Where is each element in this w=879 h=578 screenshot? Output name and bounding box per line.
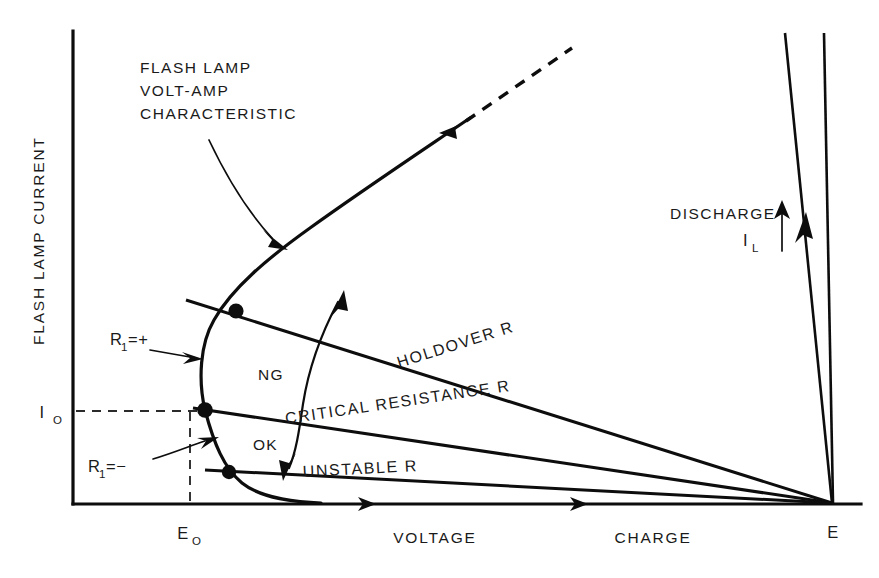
callout-leaders-group: [150, 140, 790, 459]
volt-amp-characteristic-diagram: FLASH LAMP CURRENT I O E O E VOLTAGE CHA…: [0, 0, 879, 578]
r1-negative-sign: =−: [106, 457, 126, 475]
critical-resistance-label: CRITICAL RESISTANCE R: [284, 377, 511, 427]
y-axis-label: FLASH LAMP CURRENT: [30, 136, 47, 345]
characteristic-callout-leader: [209, 140, 272, 238]
region-label-ok: OK: [253, 436, 278, 453]
x-tick-e0: E O: [177, 524, 202, 547]
r1-positive-label: R 1 =+: [110, 330, 148, 353]
characteristic-curve-upper-branch: [201, 118, 470, 410]
r1-positive-arrow-icon: [182, 352, 203, 364]
characteristic-callout-label: FLASH LAMP VOLT-AMP CHARACTERISTIC: [140, 59, 297, 122]
r1-positive-sign: =+: [128, 330, 148, 348]
r1-negative-leader: [153, 441, 205, 459]
y-tick-i0: I O: [39, 403, 63, 426]
stability-arrow-up-head-icon: [330, 290, 348, 318]
x-axis-label-voltage: VOLTAGE: [393, 529, 477, 546]
axis-group: [73, 31, 861, 504]
characteristic-callout-line-1: FLASH LAMP: [140, 59, 251, 76]
stability-transition-arrow-group: [279, 290, 348, 481]
figure-root: FLASH LAMP CURRENT I O E O E VOLTAGE CHA…: [0, 0, 879, 578]
unstable-resistance-label: UNSTABLE R: [302, 457, 418, 480]
discharge-current-label: I: [743, 231, 748, 249]
critical-operating-point-dot: [197, 402, 213, 418]
characteristic-callout-arrow-icon: [263, 230, 288, 250]
r1-negative-label: R 1 =−: [88, 457, 126, 480]
discharge-label: DISCHARGE: [670, 205, 776, 222]
characteristic-callout-line-2: VOLT-AMP: [140, 82, 229, 99]
discharge-callout-label: DISCHARGE I L: [670, 205, 776, 254]
y-tick-subscript: O: [53, 414, 63, 426]
holdover-operating-point-dot: [228, 303, 243, 318]
x-end-label: E: [827, 523, 839, 541]
y-tick-label: I: [39, 403, 44, 421]
stability-arrow-down-head-icon: [279, 453, 296, 481]
x-axis-label-charge: CHARGE: [614, 529, 691, 546]
holdover-resistance-label: HOLDOVER R: [395, 318, 516, 371]
region-label-ng: NG: [258, 366, 284, 383]
x-tick-label: E: [177, 524, 189, 542]
stability-transition-arrow-path: [289, 302, 338, 468]
discharge-current-subscript: L: [752, 242, 760, 254]
characteristic-curve-dashed-extension: [466, 48, 572, 121]
unstable-operating-point-dot: [222, 465, 236, 479]
characteristic-callout-line-3: CHARACTERISTIC: [140, 105, 297, 122]
x-tick-subscript: O: [192, 535, 202, 547]
discharge-lines-group: [785, 33, 833, 503]
